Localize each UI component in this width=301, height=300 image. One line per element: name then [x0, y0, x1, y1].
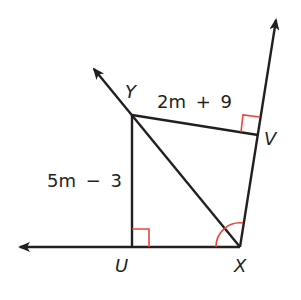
yv-const: 9 — [221, 91, 232, 112]
yu-num: 5m — [47, 170, 76, 191]
length-label-yv: 2m + 9 — [157, 91, 232, 112]
geometry-diagram: Y U X V 2m + 9 5m − 3 — [0, 0, 301, 300]
right-angle-marker-u — [132, 229, 149, 247]
right-angle-marker-v — [241, 115, 260, 132]
label-v: V — [264, 128, 278, 149]
segment-yv — [132, 115, 258, 135]
yu-const: 3 — [111, 170, 122, 191]
length-label-yu: 5m − 3 — [47, 170, 122, 191]
label-x: X — [233, 255, 247, 276]
yv-num: 2m — [157, 91, 186, 112]
yu-op: − — [86, 170, 101, 191]
label-y: Y — [125, 81, 138, 102]
label-u: U — [115, 255, 128, 276]
yv-op: + — [196, 91, 211, 112]
